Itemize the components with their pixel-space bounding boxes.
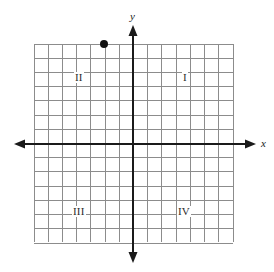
quadrant-3-label: III — [72, 206, 86, 217]
data-points — [100, 40, 108, 48]
y-axis-label: y — [130, 11, 135, 22]
x-axis-right-arrowhead — [245, 140, 256, 149]
quadrant-2-label: II — [74, 72, 84, 83]
x-axis-left-arrowhead — [14, 140, 25, 149]
plotted-point — [100, 40, 108, 48]
x-axis-label: x — [261, 138, 266, 149]
quadrant-4-label: IV — [177, 206, 191, 217]
y-axis-bottom-arrowhead — [129, 252, 138, 263]
coordinate-plane-figure: y x I II III IV — [0, 0, 274, 272]
y-axis-top-arrowhead — [129, 25, 138, 36]
axes — [14, 25, 256, 263]
coordinate-plane-svg — [0, 0, 274, 272]
quadrant-1-label: I — [182, 72, 188, 83]
